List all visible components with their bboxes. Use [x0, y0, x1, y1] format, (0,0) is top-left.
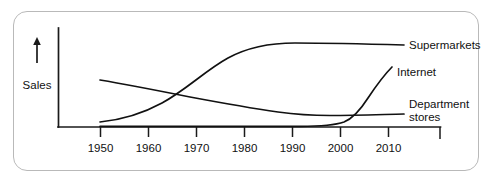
tick-label-1980: 1980: [232, 142, 258, 154]
tick-label-1970: 1970: [184, 142, 210, 154]
sales-arrow-icon: [33, 37, 41, 63]
tick-label-1950: 1950: [88, 142, 114, 154]
tick-label-2000: 2000: [328, 142, 354, 154]
series-label-department-stores-line2: stores: [409, 111, 441, 123]
x-axis-ticks: [101, 127, 441, 139]
series-label-department-stores-line1: Department: [409, 98, 470, 110]
tick-label-1990: 1990: [280, 142, 306, 154]
tick-label-1960: 1960: [136, 142, 162, 154]
line-chart: 1950 1960 1970 1980 1990 2000 2010 Sales…: [0, 0, 495, 186]
y-axis-label: Sales: [23, 79, 52, 91]
figure-root: 1950 1960 1970 1980 1990 2000 2010 Sales…: [0, 0, 495, 186]
tick-label-2010: 2010: [376, 142, 402, 154]
series-line-internet: [100, 67, 392, 126]
series-label-internet: Internet: [397, 66, 437, 78]
series-label-supermarkets: Supermarkets: [409, 39, 481, 51]
